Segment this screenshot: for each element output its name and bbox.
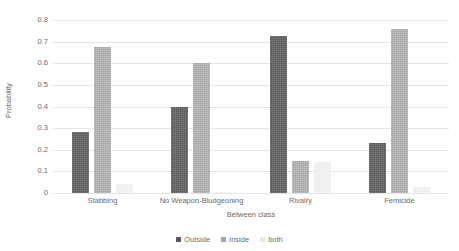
- legend-swatch-icon: [176, 237, 181, 242]
- y-axis-tick-label: 0.7: [38, 38, 48, 46]
- x-axis-tick-label: Rivalry: [289, 197, 312, 205]
- y-axis-tick-label: 0.3: [38, 124, 48, 132]
- y-axis-tick-label: 0.8: [38, 16, 48, 24]
- legend-item-outside[interactable]: Outside: [176, 236, 210, 244]
- y-axis-tick-label: 0: [44, 189, 48, 197]
- bar-chart-figure: Probability 00.10.20.30.40.50.60.70.8 St…: [0, 0, 459, 251]
- plot-area: 00.10.20.30.40.50.60.70.8: [53, 20, 449, 193]
- bar-both: [413, 187, 430, 193]
- y-axis-tick-label: 0.5: [38, 81, 48, 89]
- bar-group: [152, 20, 251, 193]
- bar-inside: [292, 161, 309, 193]
- legend-swatch-icon: [260, 237, 265, 242]
- bar-both: [116, 184, 133, 193]
- bar-both: [215, 192, 232, 193]
- bar-inside: [193, 63, 210, 193]
- y-axis-tick-label: 0.4: [38, 103, 48, 111]
- legend-label: Outside: [184, 236, 210, 244]
- legend-label: both: [268, 236, 283, 244]
- bar-group: [350, 20, 449, 193]
- legend-item-both[interactable]: both: [260, 236, 283, 244]
- legend-label: Inside: [229, 236, 249, 244]
- legend-swatch-icon: [221, 237, 226, 242]
- y-axis-tick-label: 0.2: [38, 146, 48, 154]
- bar-outside: [72, 132, 89, 193]
- x-axis-title: Between class: [53, 210, 449, 219]
- bars-layer: [53, 20, 449, 193]
- y-axis-title: Probability: [2, 0, 16, 200]
- bar-group: [53, 20, 152, 193]
- bar-outside: [369, 143, 386, 193]
- y-axis-tick-label: 0.1: [38, 168, 48, 176]
- bar-outside: [270, 36, 287, 193]
- bar-inside: [94, 47, 111, 193]
- x-axis-tick-label: No Weapon-Bludgeoning: [160, 197, 244, 205]
- x-axis-tick-label: Stabbing: [88, 197, 118, 205]
- bar-outside: [171, 107, 188, 194]
- bar-inside: [391, 29, 408, 193]
- legend-item-inside[interactable]: Inside: [221, 236, 249, 244]
- x-axis-tick-label: Femicide: [384, 197, 414, 205]
- bar-group: [251, 20, 350, 193]
- x-axis-title-label: Between class: [227, 210, 275, 219]
- y-axis-title-label: Probability: [5, 82, 14, 117]
- gridline: 0: [53, 193, 449, 194]
- y-axis-tick-label: 0.6: [38, 60, 48, 68]
- chart-legend: OutsideInsideboth: [0, 236, 459, 244]
- bar-both: [314, 162, 331, 193]
